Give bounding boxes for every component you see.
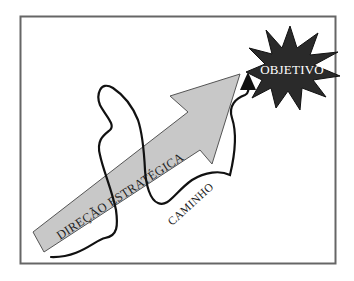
objective-label: OBJETIVO xyxy=(260,62,324,77)
strategy-diagram: DIREÇÃO ESTRATÉGICA CAMINHO OBJETIVO xyxy=(0,0,354,281)
